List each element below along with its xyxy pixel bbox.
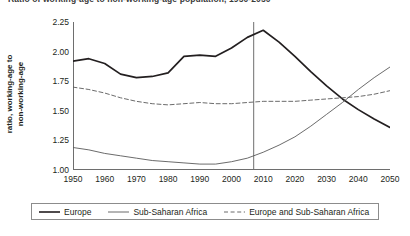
y-axis-title: ratio, working-age to non-working-age [0, 18, 30, 170]
series-line-europe [73, 30, 390, 127]
y-tick-label: 1.75 [52, 76, 69, 86]
x-tick-label: 1950 [64, 174, 83, 184]
y-axis-title-line1: ratio, working-age to [5, 55, 14, 134]
x-tick-label: 2030 [317, 174, 336, 184]
axis-major-ticks [73, 22, 390, 170]
y-tick-label: 1.50 [52, 106, 69, 116]
legend-swatch-europe [39, 208, 60, 216]
plot-area [73, 22, 390, 170]
y-axis-title-line2: non-working-age [15, 55, 26, 134]
series-line-sub-saharan-africa [73, 67, 390, 164]
legend-item-sub-saharan-africa[interactable]: Sub-Saharan Africa [108, 207, 207, 217]
legend-item-europe[interactable]: Europe [39, 207, 91, 217]
y-axis-tick-labels: 1.001.251.501.752.002.25 [38, 22, 69, 170]
x-tick-label: 2040 [349, 174, 368, 184]
x-tick-label: 1980 [159, 174, 178, 184]
y-tick-label: 2.25 [52, 17, 69, 27]
data-series-layer [73, 30, 390, 164]
x-tick-label: 2010 [254, 174, 273, 184]
legend-swatch-sub-saharan-africa [108, 208, 129, 216]
x-tick-label: 1970 [127, 174, 146, 184]
legend-label-europe-and-sub-saharan-africa: Europe and Sub-Saharan Africa [249, 207, 369, 217]
x-axis-tick-labels: 1950196019701980199020002010202020302040… [73, 174, 390, 188]
x-tick-label: 1960 [95, 174, 114, 184]
legend-item-europe-and-sub-saharan-africa[interactable]: Europe and Sub-Saharan Africa [224, 207, 369, 217]
legend-label-europe: Europe [64, 207, 91, 217]
x-tick-label: 2020 [285, 174, 304, 184]
legend-label-sub-saharan-africa: Sub-Saharan Africa [133, 207, 207, 217]
y-tick-label: 1.25 [52, 135, 69, 145]
y-tick-label: 2.00 [52, 47, 69, 57]
x-tick-label: 2050 [381, 174, 400, 184]
chart-legend: Europe Sub-Saharan Africa Europe and Sub… [31, 203, 379, 220]
x-tick-label: 1990 [190, 174, 209, 184]
chart-figure: Ratio of working-age to non-working-age … [0, 0, 410, 236]
chart-title: Ratio of working-age to non-working-age … [8, 0, 271, 4]
axis-lines [73, 22, 390, 170]
legend-swatch-europe-and-sub-saharan-africa [224, 208, 245, 216]
x-tick-label: 2000 [222, 174, 241, 184]
